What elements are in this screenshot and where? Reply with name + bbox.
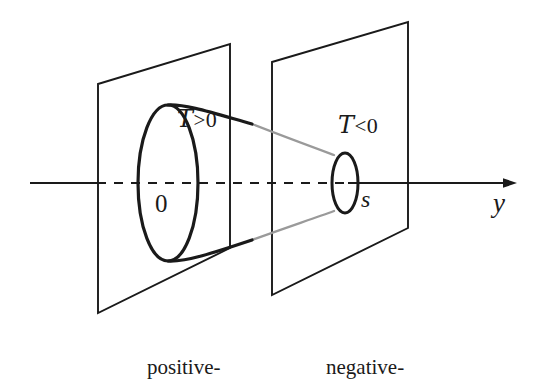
- y-axis-arrowhead-icon: [503, 178, 517, 188]
- brane-diagram-canvas: [0, 0, 533, 391]
- positive-tension-value: 0: [206, 107, 218, 132]
- brane-diagram-figure: T>0 T<0 0 s y positive- tension brane ne…: [0, 0, 533, 391]
- negative-caption-line-1: negative-: [326, 355, 404, 380]
- s-coordinate-label: s: [361, 185, 370, 213]
- negative-tension-relation: <: [355, 114, 367, 138]
- negative-tension-script-T: T: [338, 111, 355, 139]
- y-axis-group: [30, 178, 517, 188]
- negative-tension-label: T<0: [313, 84, 378, 167]
- y-axis-label: y: [493, 188, 505, 220]
- positive-tension-label: T>0: [152, 78, 217, 161]
- throat-lower-far-edge: [252, 211, 334, 240]
- positive-tension-brane-caption: positive- tension brane: [147, 305, 221, 391]
- negative-tension-brane-caption: negative- tension brane: [326, 305, 404, 391]
- positive-caption-line-1: positive-: [147, 355, 221, 380]
- positive-tension-script-T: T: [177, 105, 194, 133]
- negative-tension-value: 0: [367, 113, 379, 138]
- positive-tension-relation: >: [194, 108, 206, 132]
- origin-coordinate-label: 0: [155, 189, 168, 219]
